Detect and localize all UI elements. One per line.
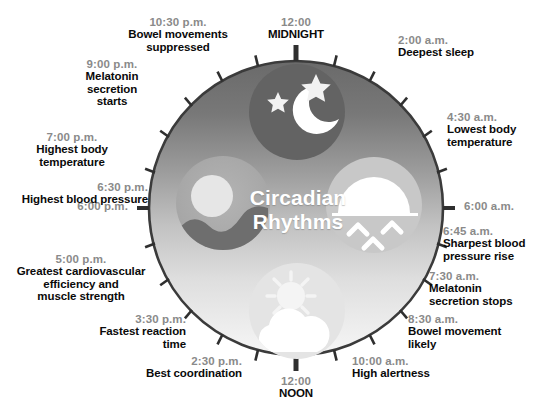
marker-description: High alertness — [352, 367, 430, 379]
marker-description: MIDNIGHT — [236, 28, 356, 40]
marker-time: 6:30 p.m. — [0, 181, 148, 193]
marker-t0830: 8:30 a.m. Bowel movementlikely — [408, 313, 501, 350]
marker-description: Best coordination — [0, 367, 242, 379]
marker-time: 10:30 p.m. — [108, 16, 248, 28]
marker-description: Highest blood pressure — [0, 193, 148, 205]
marker-t1700: 5:00 p.m. Greatest cardiovascularefficie… — [2, 253, 160, 303]
marker-midnight: 12:00 MIDNIGHT — [236, 16, 356, 41]
marker-t0600: 6:00 a.m. — [464, 200, 514, 212]
sun-behind-cloud-icon — [249, 263, 345, 359]
title-line-2: Rhythms — [253, 210, 344, 233]
marker-t1830: 6:30 p.m. Highest blood pressure — [0, 181, 148, 206]
marker-time: 2:30 p.m. — [0, 355, 242, 367]
marker-t1530: 3:30 p.m. Fastest reactiontime — [0, 313, 186, 350]
marker-t1900: 7:00 p.m. Highest bodytemperature — [8, 131, 136, 168]
marker-time: 4:30 a.m. — [447, 111, 516, 123]
marker-description: Bowel movementlikely — [408, 325, 501, 350]
marker-noon: 12:00 NOON — [236, 375, 356, 400]
title-line-1: Circadian — [250, 186, 347, 209]
marker-time: 6:00 a.m. — [464, 200, 514, 212]
circadian-rhythm-diagram: Circadian Rhythms 12:00 MIDNIGHT 2:00 a.… — [0, 0, 555, 418]
marker-t0730: 7:30 a.m. Melatoninsecretion stops — [429, 270, 513, 307]
moon-and-stars-icon — [249, 64, 345, 160]
marker-description: Greatest cardiovascularefficiency andmus… — [2, 265, 160, 302]
marker-time: 2:00 a.m. — [398, 34, 474, 46]
marker-time: 7:00 p.m. — [8, 131, 136, 143]
page-title: Circadian Rhythms — [236, 186, 360, 233]
marker-t0430: 4:30 a.m. Lowest bodytemperature — [447, 111, 516, 148]
marker-time: 9:00 p.m. — [58, 58, 166, 70]
marker-time: 7:30 a.m. — [429, 270, 513, 282]
marker-t0200: 2:00 a.m. Deepest sleep — [398, 34, 474, 59]
marker-description: Lowest bodytemperature — [447, 123, 516, 148]
marker-time: 8:30 a.m. — [408, 313, 501, 325]
marker-description: Highest bodytemperature — [8, 143, 136, 168]
marker-time: 12:00 — [236, 16, 356, 28]
marker-description: Melatoninsecretion stops — [429, 282, 513, 307]
marker-t0645: 6:45 a.m. Sharpest bloodpressure rise — [443, 225, 525, 262]
marker-description: Fastest reactiontime — [0, 325, 186, 350]
marker-t1430: 2:30 p.m. Best coordination — [0, 355, 242, 380]
marker-time: 6:45 a.m. — [443, 225, 525, 237]
marker-time: 12:00 — [236, 375, 356, 387]
marker-time: 10:00 a.m. — [352, 355, 430, 367]
marker-description: Deepest sleep — [398, 46, 474, 58]
marker-t1000: 10:00 a.m. High alertness — [352, 355, 430, 380]
marker-t2230: 10:30 p.m. Bowel movementssuppressed — [108, 16, 248, 53]
marker-description: Melatoninsecretionstarts — [58, 70, 166, 107]
marker-time: 3:30 p.m. — [0, 313, 186, 325]
marker-description: NOON — [236, 387, 356, 399]
marker-time: 5:00 p.m. — [2, 253, 160, 265]
marker-description: Sharpest bloodpressure rise — [443, 237, 525, 262]
marker-t2100: 9:00 p.m. Melatoninsecretionstarts — [58, 58, 166, 108]
marker-description: Bowel movementssuppressed — [108, 28, 248, 53]
